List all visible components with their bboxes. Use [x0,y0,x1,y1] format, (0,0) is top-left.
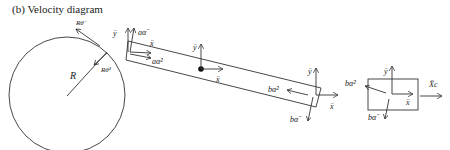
left-x-label: ẍ [149,39,154,48]
block-x-label: ẍ [405,98,410,107]
block-xc-label: Ẍc [428,80,438,89]
right-tangential-arrow [308,97,313,121]
left-x-arrow [130,52,151,53]
block-centripetal-label: bα̇² [345,79,356,88]
bar-right-end: ÿ ẍ bα̇² bα̈ [268,67,338,124]
right-centripetal-label: bα̇² [268,85,279,94]
bar: ÿ aα̈ ẍ aα̇² ÿ ẍ ÿ ẍ bα̇² bα̈ [112,28,338,124]
radius-label: R [69,70,76,81]
centripetal-arrow [94,53,107,65]
tangential-label: Rθ̈ [75,19,87,27]
centripetal-label: Rθ̇² [100,66,112,74]
block-tangential-arrow [385,99,389,119]
right-x-label: ẍ [329,102,334,111]
velocity-diagram: R Rθ̈ Rθ̇² ÿ aα̈ ẍ aα̇² ÿ ẍ [0,0,450,150]
bar-left-end: ÿ aα̈ ẍ aα̇² [112,28,163,66]
wheel-circle [9,37,125,150]
block-tangential-label: bα̈ [368,113,379,122]
wheel: R Rθ̈ Rθ̇² [9,19,125,150]
tangential-arrow [76,29,100,46]
center-x-label: ẍ [215,75,220,84]
left-tangential-label: aα̈ [138,28,149,37]
block-y-label: ÿ [383,67,388,76]
center-y-label: ÿ [192,43,197,52]
right-y-label: ÿ [307,67,312,76]
left-centripetal-arrow [130,54,151,58]
right-centripetal-arrow [287,90,308,95]
block-body [368,79,418,110]
right-tangential-label: bα̈ [290,115,301,124]
left-centripetal-label: aα̇² [152,57,163,66]
block: ÿ ẍ bα̇² bα̈ Ẍc [345,66,442,122]
left-tangential-arrow [130,28,134,52]
left-y-label: ÿ [112,29,117,38]
bar-body [126,41,321,107]
